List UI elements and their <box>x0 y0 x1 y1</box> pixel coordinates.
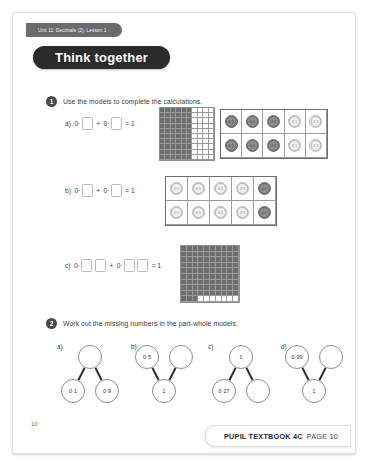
unit-banner-text: Unit 11: Decimals (2), Lesson 1 <box>38 28 106 33</box>
counter-empty: 0·1 <box>288 139 301 152</box>
part-whole-whole: 1 <box>229 345 253 369</box>
counter-cell: 0·1 <box>221 110 242 134</box>
counter-cell: 0·1 <box>285 110 306 134</box>
footer-book-title: PUPIL TEXTBOOK 4C <box>224 432 303 441</box>
counter-cell: 0·1 <box>263 134 284 158</box>
counter-cell: 0·1 <box>166 201 188 225</box>
counter-cell: 0·1 <box>242 110 263 134</box>
page-title-text: Think together <box>55 50 148 65</box>
equation-1c: c) 0· + 0· = 1 <box>65 259 163 272</box>
counter-cell: 0·1 <box>306 134 327 158</box>
eq-1b-prefix-right: 0· <box>104 187 110 194</box>
counter-label: 0·1 <box>226 116 237 127</box>
eq-1a-prefix-left: 0· <box>74 120 80 127</box>
counter-cell: 0·1 <box>263 110 284 134</box>
counter-cell: 0·1 <box>210 201 232 225</box>
counter-empty: 0·1 <box>192 182 205 195</box>
part-whole-model-b: b)0·51 <box>131 343 209 405</box>
counter-label: 0·1 <box>171 207 182 218</box>
question-2-number: 2 <box>46 318 57 329</box>
part-whole-part-2: 0·9 <box>95 379 119 403</box>
grid-cell <box>233 296 239 302</box>
counter-filled: 0·1 <box>258 206 271 219</box>
eq-1a-prefix-right: 0· <box>104 120 110 127</box>
counter-label: 0·1 <box>259 207 270 218</box>
part-whole-whole: 1 <box>152 379 176 403</box>
counter-label: 0·1 <box>289 140 300 151</box>
counter-cell: 0·1 <box>166 177 188 201</box>
part-whole-part-1: 0·5 <box>135 345 159 369</box>
page-title: Think together <box>33 46 170 69</box>
grid-cell <box>209 155 214 160</box>
counter-empty: 0·1 <box>236 206 249 219</box>
answer-box-1a-2[interactable] <box>111 117 122 130</box>
answer-box-1c-4[interactable] <box>137 259 148 272</box>
counter-label: 0·1 <box>237 207 248 218</box>
answer-box-1b-1[interactable] <box>82 184 93 197</box>
part-whole-part-2-empty[interactable] <box>246 379 270 403</box>
answer-box-1c-3[interactable] <box>124 259 135 272</box>
counter-cell: 0·1 <box>232 201 254 225</box>
eq-1b-prefix-left: 0· <box>74 187 80 194</box>
counter-label: 0·1 <box>193 207 204 218</box>
counter-label: 0·1 <box>215 207 226 218</box>
question-1-number: 1 <box>46 96 57 107</box>
counter-empty: 0·1 <box>214 182 227 195</box>
counter-filled: 0·1 <box>267 139 280 152</box>
part-whole-whole-empty[interactable] <box>78 345 102 369</box>
counter-cell: 0·1 <box>210 177 232 201</box>
counter-cell: 0·1 <box>254 201 276 225</box>
counter-label: 0·1 <box>268 116 279 127</box>
counter-filled: 0·1 <box>225 115 238 128</box>
part-label-1a: a) <box>65 120 71 127</box>
counter-filled: 0·1 <box>267 115 280 128</box>
eq-1a-operator: + <box>96 120 100 127</box>
counter-filled: 0·1 <box>225 139 238 152</box>
eq-1b-operator: + <box>96 187 100 194</box>
question-1-text: Use the models to complete the calculati… <box>63 98 202 105</box>
counter-empty: 0·1 <box>288 115 301 128</box>
unit-banner: Unit 11: Decimals (2), Lesson 1 <box>26 23 122 37</box>
equation-1a: a) 0· + 0· = 1 <box>65 117 137 130</box>
eq-1b-equals: = 1 <box>125 187 134 194</box>
counter-label: 0·1 <box>311 116 322 127</box>
answer-box-1c-1[interactable] <box>81 259 92 272</box>
answer-box-1a-1[interactable] <box>82 117 93 130</box>
counter-empty: 0·1 <box>192 206 205 219</box>
counter-frame-1a: 0·10·10·10·10·10·10·10·10·10·1 <box>220 109 328 159</box>
counter-empty: 0·1 <box>214 206 227 219</box>
counter-cell: 0·1 <box>242 134 263 158</box>
counter-cell: 0·1 <box>188 177 210 201</box>
counter-cell: 0·1 <box>221 134 242 158</box>
part-whole-part-2-empty[interactable] <box>169 345 193 369</box>
counter-filled: 0·1 <box>246 139 259 152</box>
eq-1c-prefix-left: 0· <box>74 262 80 269</box>
counter-cell: 0·1 <box>188 201 210 225</box>
equation-1b: b) 0· + 0· = 1 <box>65 184 137 197</box>
footer-badge: PUPIL TEXTBOOK 4C PAGE 10 <box>205 425 351 447</box>
footer-page-label: PAGE 10 <box>307 432 338 441</box>
part-whole-model-d: d)0·991 <box>281 343 356 405</box>
counter-cell: 0·1 <box>232 177 254 201</box>
answer-box-1c-2[interactable] <box>95 259 106 272</box>
part-whole-model-c: c)10·27 <box>208 343 286 405</box>
counter-label: 0·1 <box>247 140 258 151</box>
answer-box-1b-2[interactable] <box>111 184 122 197</box>
part-label-1b: b) <box>65 187 71 194</box>
hundred-square-1c <box>180 245 240 303</box>
counter-label: 0·1 <box>311 140 322 151</box>
counter-empty: 0·1 <box>236 182 249 195</box>
question-2-text: Work out the missing numbers in the part… <box>63 320 238 327</box>
eq-1c-equals: = 1 <box>152 262 161 269</box>
eq-1c-operator: + <box>109 262 113 269</box>
counter-label: 0·1 <box>268 140 279 151</box>
counter-frame-1b: 0·10·10·10·10·10·10·10·10·10·1 <box>165 176 277 226</box>
counter-label: 0·1 <box>171 183 182 194</box>
counter-label: 0·1 <box>226 140 237 151</box>
part-whole-part-1: 0·27 <box>212 379 236 403</box>
part-whole-part-1: 0·1 <box>61 379 85 403</box>
page-number: 10 <box>31 421 38 427</box>
part-whole-part-2-empty[interactable] <box>319 345 343 369</box>
counter-cell: 0·1 <box>285 134 306 158</box>
counter-empty: 0·1 <box>309 139 322 152</box>
